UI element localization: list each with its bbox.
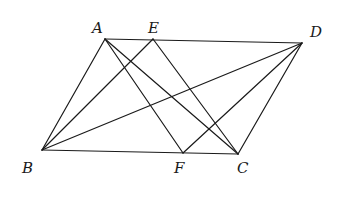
segment-bc	[42, 150, 238, 154]
point-label-a: A	[90, 19, 103, 37]
segment-cd	[238, 43, 302, 154]
geometry-diagram: AEDBFC	[0, 0, 342, 205]
point-label-c: C	[237, 159, 249, 177]
segments-group	[42, 39, 302, 154]
segment-ad	[105, 39, 302, 43]
point-label-f: F	[173, 159, 185, 177]
segment-be	[42, 39, 153, 150]
segment-fd	[183, 43, 302, 153]
point-label-b: B	[21, 159, 33, 177]
point-label-e: E	[147, 19, 159, 37]
segment-bd	[42, 43, 302, 150]
point-label-d: D	[309, 23, 322, 41]
segment-ec	[153, 39, 238, 154]
segment-ab	[42, 39, 105, 150]
